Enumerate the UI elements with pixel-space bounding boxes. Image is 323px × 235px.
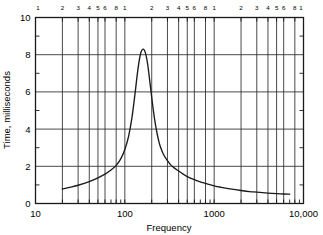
plot-area [36, 18, 304, 204]
top-axis-tick-label: 4 [177, 4, 181, 11]
y-axis-tick-label: 2 [25, 161, 30, 172]
top-axis-tick-label: 6 [193, 4, 197, 11]
top-axis-tick-label: 3 [76, 4, 80, 11]
top-axis-tick-label: 5 [186, 4, 190, 11]
y-axis-tick-label: 8 [25, 49, 30, 60]
chart-figure: 1234568123456812345681 0246810 101001000… [0, 0, 323, 235]
top-axis-tick-label: 3 [166, 4, 170, 11]
x-axis-tick-label: 100 [117, 208, 133, 219]
y-axis-tick-labels: 0246810 [20, 12, 31, 209]
top-axis-tick-label: 1 [212, 4, 216, 11]
top-axis-tick-label: 8 [293, 4, 297, 11]
y-axis-title: Time, milliseconds [1, 71, 12, 149]
top-axis-tick-label: 4 [266, 4, 270, 11]
x-axis-title: Frequency [147, 222, 192, 233]
vertical-gridlines [62, 18, 294, 204]
top-axis-tick-label: 1 [123, 4, 127, 11]
chart-svg: 1234568123456812345681 0246810 101001000… [0, 0, 323, 235]
y-axis-tick-label: 6 [25, 86, 30, 97]
top-axis-tick-label: 2 [150, 4, 154, 11]
x-axis-tick-label: 10 [30, 208, 41, 219]
y-axis-tick-label: 4 [25, 124, 30, 135]
x-axis-tick-labels: 10100100010,000 [30, 208, 318, 219]
top-axis-tick-label: 1 [299, 4, 303, 11]
top-axis-tick-label: 2 [61, 4, 65, 11]
top-axis-tick-label: 5 [275, 4, 279, 11]
top-axis-labels: 1234568123456812345681 [36, 4, 303, 11]
top-axis-tick-label: 6 [103, 4, 107, 11]
top-axis-tick-label: 2 [239, 4, 243, 11]
data-curve [62, 49, 289, 194]
x-axis-tick-label: 1000 [204, 208, 225, 219]
horizontal-gridlines [36, 55, 304, 167]
top-axis-tick-label: 6 [282, 4, 286, 11]
top-axis-tick-label: 8 [114, 4, 118, 11]
x-axis-tick-label: 10,000 [289, 208, 318, 219]
top-axis-tick-label: 5 [96, 4, 100, 11]
plot-frame [36, 18, 304, 204]
top-axis-tick-label: 4 [88, 4, 92, 11]
y-axis-tick-label: 10 [20, 12, 31, 23]
top-axis-tick-label: 1 [36, 4, 40, 11]
top-axis-tick-label: 3 [255, 4, 259, 11]
top-axis-tick-label: 8 [204, 4, 208, 11]
